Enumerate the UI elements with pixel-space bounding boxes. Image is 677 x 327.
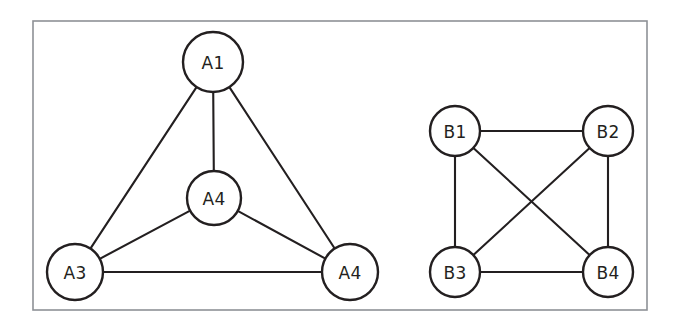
node-b4[interactable]: B4 (583, 247, 633, 297)
node-label-a2: A4 (203, 189, 226, 209)
figure-canvas: A1A4A3A4B1B2B3B4 (0, 0, 677, 327)
node-a1[interactable]: A1 (183, 32, 243, 92)
node-b2[interactable]: B2 (583, 106, 633, 156)
node-label-b4: B4 (597, 263, 620, 283)
graph-diagram-svg: A1A4A3A4B1B2B3B4 (0, 0, 677, 327)
node-b3[interactable]: B3 (430, 247, 480, 297)
node-label-b1: B1 (444, 122, 467, 142)
node-a4[interactable]: A4 (322, 244, 378, 300)
edge-a1-a2 (213, 92, 214, 171)
node-label-b3: B3 (444, 263, 467, 283)
node-a2[interactable]: A4 (187, 171, 241, 225)
node-label-a3: A3 (64, 263, 87, 283)
node-label-a4: A4 (339, 263, 362, 283)
node-label-a1: A1 (202, 53, 225, 73)
node-a3[interactable]: A3 (47, 244, 103, 300)
node-b1[interactable]: B1 (430, 106, 480, 156)
node-label-b2: B2 (597, 122, 620, 142)
